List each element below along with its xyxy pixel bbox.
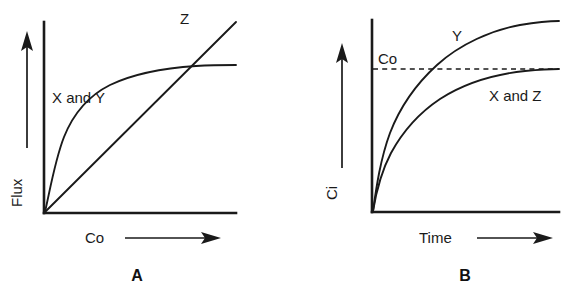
panel-a: X and Y Z Flux Co A [8,10,236,284]
panel-b-curve-y [373,21,559,211]
panel-b-label-y: Y [452,27,462,44]
panel-a-x-axis-arrow-icon [125,232,221,244]
panel-a-curve-x-and-y [45,65,236,212]
panel-a-x-axis-label: Co [85,229,104,246]
panel-a-label-z: Z [180,10,189,27]
panel-a-label-x-and-y: X and Y [52,89,105,106]
panel-a-y-axis-label: Flux [8,178,25,207]
panel-b-y-axis-arrow-icon [336,43,348,168]
panel-b-label-co: Co [378,50,397,67]
panel-b: Co Y X and Z Ci Time B [323,20,559,284]
panel-b-caption: B [459,267,471,284]
figure-container: X and Y Z Flux Co A [0,0,580,295]
panel-b-label-x-and-z: X and Z [489,87,542,104]
panel-b-x-axis-label: Time [419,229,452,246]
panel-a-caption: A [131,267,143,284]
panel-b-x-axis-arrow-icon [477,232,553,244]
panel-a-y-axis-arrow-icon [21,31,33,148]
panel-b-y-axis-label: Ci [323,186,340,200]
figure-svg: X and Y Z Flux Co A [0,0,580,295]
